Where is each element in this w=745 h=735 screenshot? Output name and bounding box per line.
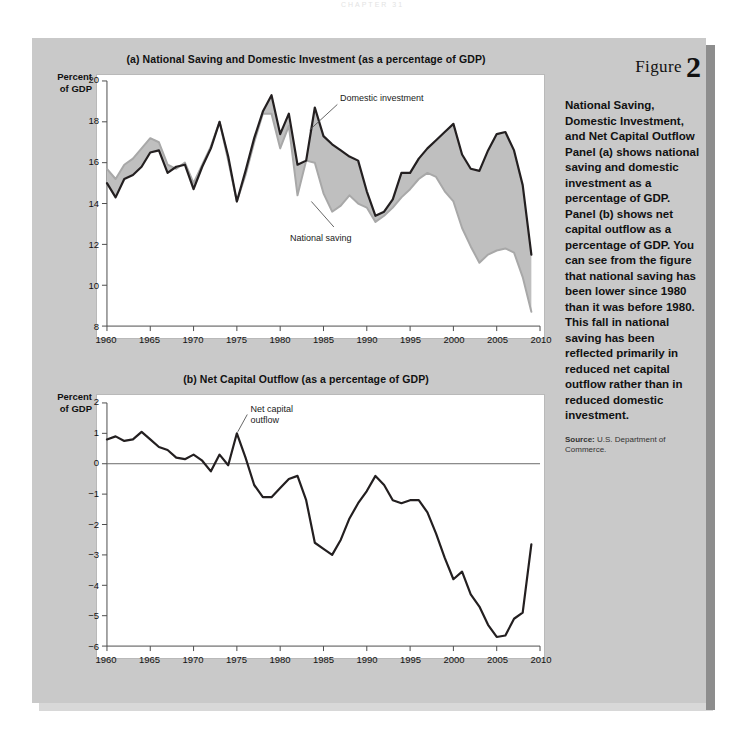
panel-b-title: (b) Net Capital Outflow (as a percentage… — [56, 373, 556, 385]
panel-a-plot — [96, 74, 545, 339]
panel-b-xtick: 2000 — [434, 654, 474, 665]
panel-a-xtick: 1960 — [86, 334, 126, 345]
figure-source: Source: U.S. Department of Commerce. — [565, 435, 701, 456]
panel-a-ytick: 14 — [59, 198, 99, 209]
panel-b-ytick: −3 — [59, 549, 99, 560]
panel-b-xtick: 1990 — [347, 654, 387, 665]
panel-a-ytick: 12 — [59, 239, 99, 250]
national-saving-label: National saving — [290, 233, 352, 244]
panel-a-xtick: 2010 — [521, 334, 561, 345]
panel-a-ytick: 10 — [59, 280, 99, 291]
panel-b-xtick: 1995 — [391, 654, 431, 665]
domestic-investment-label: Domestic investment — [340, 93, 424, 104]
panel-b-ytick: 0 — [59, 457, 99, 468]
page-header: CHAPTER 31 — [0, 1, 745, 8]
figure-source-label: Source: — [565, 435, 595, 444]
panel-a-ytick: 18 — [59, 115, 99, 126]
panel-b-xtick: 1980 — [260, 654, 300, 665]
panel-b-svg — [97, 395, 544, 658]
panel-a-ytick: 8 — [59, 321, 99, 332]
panel-a-xtick: 1995 — [391, 334, 431, 345]
figure-caption-title: National Saving, Domestic Investment, an… — [565, 98, 701, 145]
figure-caption-body: Panel (a) shows national saving and dome… — [565, 145, 701, 424]
panel-b-xtick: 1985 — [304, 654, 344, 665]
figure-caption-column: Figure2 National Saving, Domestic Invest… — [565, 50, 701, 456]
panel-a-xtick: 1970 — [173, 334, 213, 345]
panel-b-ytick: −1 — [59, 488, 99, 499]
panel-b-ytick: 1 — [59, 427, 99, 438]
figure-panel: (a) National Saving and Domestic Investm… — [32, 38, 706, 703]
panel-b-plot — [96, 394, 545, 659]
panel-b-ytick: −2 — [59, 519, 99, 530]
panel-a-title: (a) National Saving and Domestic Investm… — [56, 53, 556, 65]
panel-a-xtick: 2005 — [478, 334, 518, 345]
panel-a-svg — [97, 75, 544, 338]
net-capital-outflow-label: Net capital outflow — [250, 404, 293, 426]
panel-a-ytick: 16 — [59, 156, 99, 167]
figure-number: 2 — [686, 50, 701, 83]
panel-a-xtick: 1980 — [260, 334, 300, 345]
panel-a-xtick: 1965 — [130, 334, 170, 345]
figure-word: Figure — [635, 57, 682, 76]
panel-b-ytick: −5 — [59, 610, 99, 621]
panel-b-xtick: 1970 — [173, 654, 213, 665]
panel-b-ytick: −4 — [59, 580, 99, 591]
panel-a-ytick: 20 — [59, 74, 99, 85]
panel-b-ytick: 2 — [59, 396, 99, 407]
panel-b-xtick: 2005 — [478, 654, 518, 665]
panel-a-xtick: 1975 — [217, 334, 257, 345]
panel-b-xtick: 1975 — [217, 654, 257, 665]
panel-b-ytick: −6 — [59, 641, 99, 652]
panel-a-xtick: 2000 — [434, 334, 474, 345]
panel-b-xtick: 1965 — [130, 654, 170, 665]
panel-a-xtick: 1990 — [347, 334, 387, 345]
panel-a-xtick: 1985 — [304, 334, 344, 345]
panel-b-xtick: 1960 — [86, 654, 126, 665]
panel-b-xtick: 2010 — [521, 654, 561, 665]
figure-heading: Figure2 — [565, 50, 701, 84]
